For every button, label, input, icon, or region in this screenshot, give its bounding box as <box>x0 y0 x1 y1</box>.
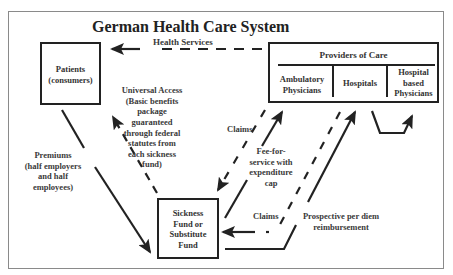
health-services-label: Health Services <box>153 37 213 48</box>
premiums-label: Premiums (half employers and half employ… <box>18 150 88 193</box>
claims-hospitals-label: Claims <box>253 211 279 222</box>
patients-label: Patients <box>42 64 99 75</box>
providers-divider <box>278 64 435 66</box>
provider-hospital-based-physicians: Hospital based Physicians <box>388 67 439 99</box>
universal-access-label: Universal Access (Basic benefits package… <box>112 85 192 170</box>
provider-hospitals: Hospitals <box>334 78 386 89</box>
sickness-fund-node: Sickness Fund or Substitute Fund <box>157 198 219 259</box>
fee-for-service-label: Fee-for- service with expenditure cap <box>243 146 299 189</box>
hospital-based-loop-arrow <box>372 111 412 133</box>
providers-header: Providers of Care <box>270 50 437 61</box>
prospective-per-diem-label: Prospective per diem reimbursement <box>296 211 386 232</box>
patients-node: Patients (consumers) <box>40 42 101 105</box>
providers-of-care-node: Providers of Care Ambulatory Physicians … <box>268 42 439 103</box>
provider-ambulatory-physicians: Ambulatory Physicians <box>272 74 332 95</box>
patients-sublabel: (consumers) <box>42 75 99 86</box>
claims-ambulatory-label: Claims <box>227 124 253 135</box>
